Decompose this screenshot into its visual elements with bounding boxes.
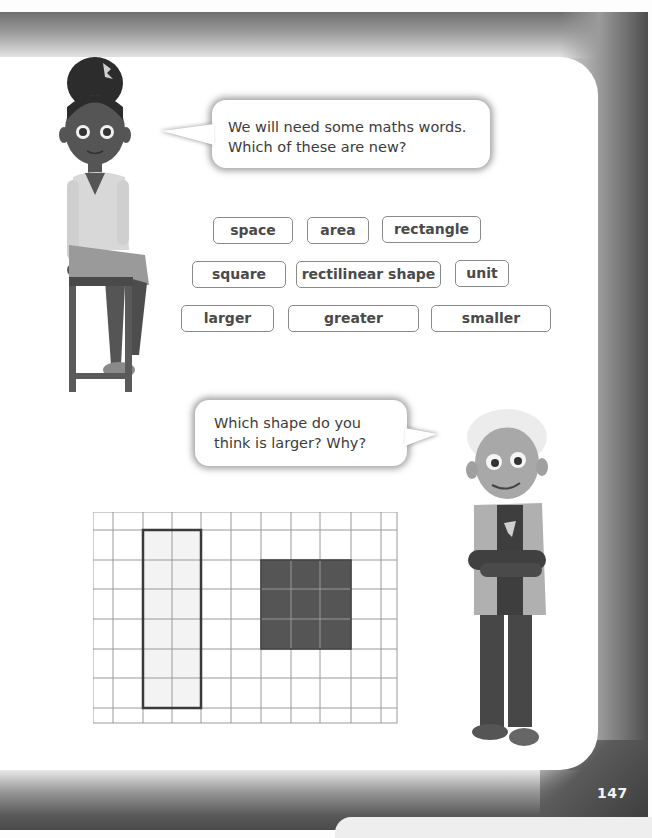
word-box-square: square (192, 261, 286, 288)
speech-tail (405, 428, 437, 446)
word-box-area: area (307, 217, 369, 244)
girl-speech-line-1: We will need some maths words. (228, 117, 466, 137)
word-box-space: space (213, 217, 293, 244)
top-band (0, 12, 648, 58)
boy-speech-line-1: Which shape do you (214, 413, 366, 433)
word-box-smaller: smaller (431, 305, 551, 332)
girl-speech-bubble: We will need some maths words. Which of … (212, 100, 490, 168)
word-box-rectilinear-shape: rectilinear shape (296, 261, 441, 288)
bottom-strip (335, 817, 652, 838)
word-box-greater: greater (288, 305, 419, 332)
word-box-larger: larger (181, 305, 274, 332)
girl-character-illustration (55, 55, 165, 395)
word-box-rectangle: rectangle (382, 216, 481, 243)
boy-character-illustration (452, 405, 562, 755)
boy-speech-bubble: Which shape do you think is larger? Why? (195, 400, 407, 466)
girl-speech-line-2: Which of these are new? (228, 137, 466, 157)
word-box-unit: unit (455, 260, 509, 287)
shaded-square (261, 560, 351, 649)
squared-grid (93, 512, 399, 725)
page-number: 147 (597, 785, 628, 801)
boy-speech-line-2: think is larger? Why? (214, 433, 366, 453)
speech-tail (162, 124, 214, 145)
